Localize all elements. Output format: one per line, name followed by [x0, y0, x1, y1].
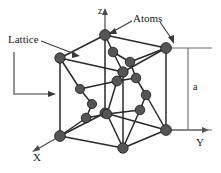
- atom-corner-top-back-left: [55, 53, 65, 63]
- bond-7: [80, 81, 117, 89]
- atom-corner-bottom-back-left: [55, 131, 66, 142]
- dimension-label-a: a: [193, 82, 197, 92]
- atom-interior-7: [141, 90, 151, 100]
- atom-corner-top-back-right: [100, 30, 111, 41]
- atom-corner-top-front-left: [118, 67, 128, 77]
- lattice-diagram-figure: Lattice Atoms z X Y a: [0, 0, 221, 173]
- cube-edge-top-back-right: [105, 35, 166, 48]
- axis-label-y: Y: [196, 137, 204, 148]
- axis-arrowhead-z: [102, 8, 108, 15]
- atom-interior-4: [112, 76, 122, 86]
- atom-interior-8: [81, 113, 91, 123]
- leader-arrowhead-lattice-elbow: [48, 91, 56, 97]
- axis-label-z: z: [98, 6, 102, 16]
- label-atoms: Atoms: [133, 13, 162, 24]
- bond-21: [107, 114, 123, 148]
- atom-interior-9: [102, 109, 112, 119]
- atom-interior-1: [108, 47, 118, 57]
- atom-interior-10: [135, 105, 145, 115]
- label-lattice: Lattice: [8, 34, 39, 45]
- atom-interior-2: [125, 57, 135, 67]
- leader-lattice-elbow: [14, 52, 50, 94]
- dimension-bracket-group: [166, 48, 212, 130]
- leader-atoms-right: [160, 22, 171, 38]
- leader-atoms-left: [114, 21, 132, 31]
- atom-corner-bottom-front-right: [161, 125, 172, 136]
- leader-arrowhead-lattice-direct: [72, 51, 80, 58]
- leader-lattice-direct: [41, 41, 75, 54]
- atom-interior-6: [87, 99, 96, 108]
- cube-edge-top-left-back: [60, 35, 105, 58]
- axis-label-x: X: [33, 152, 41, 163]
- atom-corner-bottom-front-left: [118, 143, 128, 153]
- cube-edge-top-front-left: [60, 58, 123, 72]
- atom-interior-5: [131, 73, 141, 83]
- cube-edge-bottom-front-left: [60, 136, 123, 148]
- atom-interior-3: [75, 84, 84, 93]
- atom-corner-top-front-right: [161, 43, 172, 54]
- leader-arrowhead-atoms-right: [168, 35, 174, 44]
- lattice-svg-canvas: [0, 0, 221, 173]
